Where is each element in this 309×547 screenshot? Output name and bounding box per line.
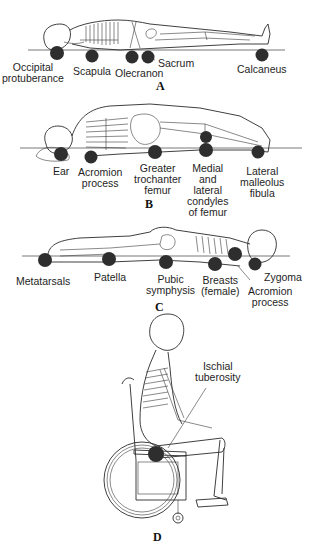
label-metatarsals: Metatarsals (16, 276, 70, 287)
label-patella: Patella (94, 272, 126, 283)
label-sacrum: Sacrum (158, 58, 194, 69)
label-acromion-process-prone: Acromion process (248, 286, 292, 308)
panel-c-drawing (22, 227, 290, 280)
pressure-points-figure: Occipital protuberance Scapula Olecranon… (0, 0, 309, 547)
label-condyles-of-femur: Medial and lateral condyles of femur (187, 163, 228, 218)
label-zygoma: Zygoma (264, 272, 302, 283)
label-lateral-malleolus-fibula: Lateral malleolus fibula (240, 166, 284, 199)
label-pubic-symphysis: Pubic symphysis (146, 274, 195, 296)
label-greater-trochanter-femur: Greater trochanter femur (134, 163, 181, 196)
label-acromion-process: Acromion process (78, 167, 122, 189)
label-ischial-tuberosity: Ischial tuberosity (195, 361, 241, 383)
panel-letter-d: D (153, 530, 162, 545)
panel-letter-b: B (145, 197, 153, 212)
label-occipital-protuberance: Occipital protuberance (2, 62, 64, 84)
panel-d-drawing (104, 314, 228, 523)
label-scapula: Scapula (73, 66, 111, 77)
panel-a-drawing (28, 20, 285, 64)
panel-b-drawing (20, 104, 302, 164)
panel-letter-a: A (156, 79, 165, 94)
label-calcaneus: Calcaneus (237, 64, 287, 75)
label-olecranon: Olecranon (115, 68, 163, 79)
label-ear: Ear (53, 166, 69, 177)
panel-letter-c: C (155, 300, 164, 315)
label-breasts-female: Breasts (female) (201, 275, 240, 297)
